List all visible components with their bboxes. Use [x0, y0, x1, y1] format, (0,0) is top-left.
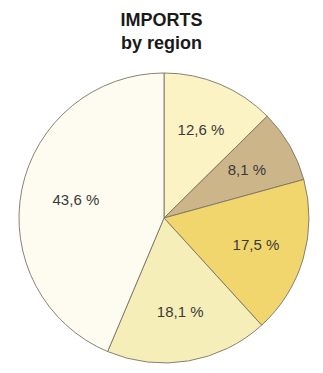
- slice-label: 12,6 %: [178, 121, 225, 138]
- slice-label: 43,6 %: [53, 191, 100, 208]
- slice-label: 18,1 %: [157, 303, 204, 320]
- slice-label: 8,1 %: [228, 161, 266, 178]
- slice-label: 17,5 %: [233, 236, 280, 253]
- pie-chart: 12,6 %8,1 %17,5 %18,1 %43,6 %: [0, 0, 323, 373]
